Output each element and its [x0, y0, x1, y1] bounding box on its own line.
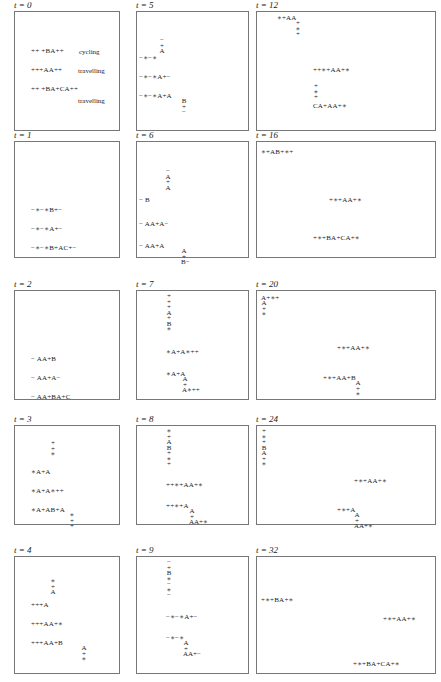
vertical-pattern: A+∗ [355, 381, 361, 398]
vertical-pattern: +++A+B∗ [166, 294, 172, 333]
vertical-pattern: −A+A [165, 169, 171, 191]
pattern-cell: A [159, 49, 165, 55]
pattern-cell: B− [181, 260, 187, 266]
pattern-cell: ∗ [261, 462, 267, 468]
pattern-cell: A [165, 186, 171, 192]
panel-label-t0: t = 0 [14, 0, 32, 10]
panel-t6: − B− AA+A−− AA+A−A+AA+B− [136, 141, 249, 258]
vertical-pattern: ++∗ [50, 441, 56, 458]
pattern-cell: − [181, 110, 187, 116]
pattern-cell: AA+− [183, 652, 189, 658]
panel-label-t20: t = 20 [256, 279, 278, 289]
vertical-pattern: ∗++ [69, 513, 75, 530]
pattern-row: +∗+AA+∗ [354, 478, 387, 485]
vertical-pattern: +∗+ [313, 84, 319, 101]
panel-t7: ∗A+A∗++∗A+A+++A+B∗A+A∗++ [136, 290, 249, 400]
vertical-pattern: A+A∗++ [182, 377, 188, 394]
panel-t8: ++∗+AA+∗++∗+A∗+AB+∗+A+AA+∗ [136, 425, 249, 525]
pattern-row: −∗−∗A+− [31, 226, 63, 233]
panel-label-t9: t = 9 [136, 545, 154, 555]
pattern-row: +++AA+∗ [31, 621, 63, 628]
pattern-row: ++ +BA+CA++ [31, 86, 78, 93]
panel-t0: ++ +BA+++++AA++++ +BA+CA++cyclingtravell… [14, 11, 120, 131]
pattern-row: − AA+A− [31, 375, 61, 382]
vertical-pattern: ∗+A [50, 579, 56, 596]
pattern-cell: AA+∗ [189, 520, 195, 526]
panel-label-t8: t = 8 [136, 414, 154, 424]
pattern-cell: + [295, 32, 301, 38]
vertical-pattern: −+A [159, 38, 165, 55]
vertical-pattern: B+− [181, 99, 187, 116]
vertical-pattern: A+∗ [261, 301, 267, 318]
pattern-row: −∗−∗A+− [166, 614, 198, 621]
panel-t32: +∗+BA+∗+∗+AA+∗+∗+BA+CA+∗ [256, 556, 436, 674]
pattern-cell: ∗ [166, 327, 172, 333]
pattern-cell: AA+∗ [354, 524, 360, 530]
pattern-row: +++AA+B [31, 640, 63, 647]
panel-t24: +∗+AA+∗+∗+A+∗+BA+∗A+AA+∗ [256, 425, 436, 525]
panel-t20: A+∗++∗+AA+∗+∗+AA+BA+∗A+∗ [256, 290, 436, 400]
pattern-cell: − [166, 593, 172, 599]
pattern-row: −∗−∗ [166, 635, 184, 642]
state-annotation: travelling [78, 67, 105, 75]
pattern-row: −∗−∗B+− [31, 207, 62, 214]
pattern-row: +∗+BA+∗ [261, 597, 293, 604]
pattern-row: − AA+A− [139, 221, 169, 228]
pattern-row: +∗+AA+∗ [329, 197, 362, 204]
pattern-row: ∗A+A∗++ [166, 349, 199, 356]
pattern-row: CA+AA+∗ [313, 103, 347, 110]
pattern-row: +++AA++ [31, 67, 62, 74]
vertical-pattern: ∗+AB+∗+ [166, 429, 172, 468]
panel-t2: − AA+B− AA+A−− AA+BA+C [14, 290, 120, 400]
pattern-cell: A∗++ [182, 388, 188, 394]
pattern-cell: + [166, 462, 172, 468]
vertical-pattern: A+B− [181, 249, 187, 266]
pattern-cell: ∗ [50, 452, 56, 458]
pattern-row: −∗−∗B+AC+− [31, 245, 77, 252]
panel-label-t4: t = 4 [14, 545, 32, 555]
pattern-cell: ∗ [81, 657, 87, 663]
pattern-row: ∗+AB+∗+ [261, 149, 293, 156]
pattern-row: −∗−∗A+− [139, 74, 171, 81]
vertical-pattern: A+AA+∗ [189, 509, 195, 526]
pattern-row: − B [139, 197, 150, 204]
pattern-row: ∗A+A [31, 469, 51, 476]
pattern-row: +∗+BA+CA+∗ [313, 235, 360, 242]
pattern-cell: + [313, 95, 319, 101]
panel-label-t6: t = 6 [136, 130, 154, 140]
panel-label-t7: t = 7 [136, 279, 154, 289]
panel-label-t32: t = 32 [256, 545, 278, 555]
vertical-pattern: A+AA+∗ [354, 513, 360, 530]
pattern-row: −∗−∗ [139, 55, 157, 62]
panel-label-t2: t = 2 [14, 279, 32, 289]
vertical-pattern: +∗+ [295, 21, 301, 38]
panel-t5: −∗−∗−∗−∗A+−−∗−∗A+A−+AB+− [136, 11, 249, 131]
vertical-pattern: A+AA+− [183, 641, 189, 658]
panel-label-t16: t = 16 [256, 130, 278, 140]
vertical-pattern: −+B∗−∗− [166, 560, 172, 599]
panel-t12: ∗+AA++∗+AA+∗CA+AA+∗+∗++∗+ [256, 11, 436, 131]
panel-label-t1: t = 1 [14, 130, 32, 140]
vertical-pattern: +∗+BA+∗ [261, 429, 267, 468]
panel-t1: −∗−∗B+−−∗−∗A+−−∗−∗B+AC+− [14, 141, 120, 258]
pattern-row: +∗+AA+B [323, 375, 356, 382]
pattern-row: +∗+BA+CA+∗ [353, 661, 400, 668]
pattern-cell: ∗ [261, 312, 267, 318]
pattern-cell: ∗ [355, 392, 361, 398]
state-annotation: cycling [79, 48, 100, 56]
pattern-row: ++∗+AA+∗ [166, 482, 203, 489]
pattern-row: +∗+AA+∗ [383, 616, 416, 623]
pattern-row: ∗+AA [277, 15, 297, 22]
pattern-row: +∗+AA+∗ [337, 345, 370, 352]
pattern-cell: A [50, 590, 56, 596]
pattern-row: ++∗+A [166, 503, 189, 510]
pattern-row: ++∗+AA+∗ [313, 67, 350, 74]
pattern-row: − AA+B [31, 356, 56, 363]
panel-t4: +++A+++AA+∗+++AA+B∗+AA+∗ [14, 556, 120, 674]
vertical-pattern: A+∗ [81, 646, 87, 663]
pattern-row: −∗−∗A+A [139, 93, 172, 100]
pattern-row: ∗A+A∗++ [31, 488, 64, 495]
pattern-row: ∗A+AB+A [31, 507, 65, 514]
pattern-row: +∗+A [337, 507, 356, 514]
pattern-row: − AA+A [139, 243, 165, 250]
